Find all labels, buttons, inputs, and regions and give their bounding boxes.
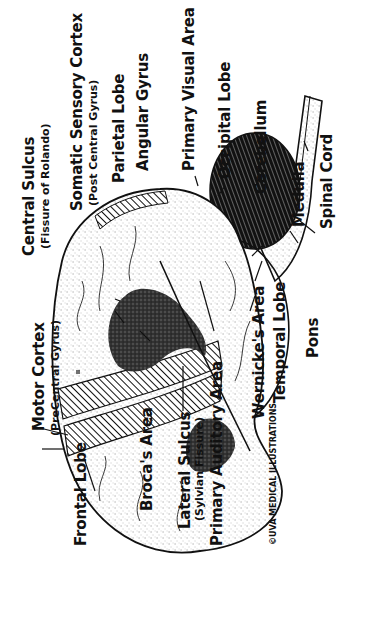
label-motor-cortex-sub: (PreCentral Gyrus) bbox=[50, 320, 61, 436]
label-primary-auditory-area: Primary Auditory Area bbox=[210, 361, 225, 546]
credit-text: ©UVA MEDICAL ILLUSTRATIONS bbox=[270, 403, 278, 545]
label-somatic-sensory-cortex: Somatic Sensory Cortex bbox=[70, 13, 85, 211]
label-brocas-area: Broca's Area bbox=[140, 407, 155, 511]
label-pons: Pons bbox=[306, 318, 321, 358]
label-central-sulcus-sub: (Fissure of Rolando) bbox=[40, 123, 51, 249]
label-wernickes-area: Wernicke's Area bbox=[252, 286, 267, 419]
brain-diagram: Central Sulcus (Fissure of Rolando) Soma… bbox=[0, 0, 365, 641]
label-motor-cortex: Motor Cortex bbox=[32, 322, 47, 431]
label-frontal-lobe: Frontal Lobe bbox=[74, 442, 89, 546]
label-cerebellum: Cerebellum bbox=[254, 100, 269, 194]
label-medulla: Medulla bbox=[292, 161, 307, 227]
label-parietal-lobe: Parietal Lobe bbox=[112, 74, 127, 183]
label-central-sulcus: Central Sulcus bbox=[22, 137, 37, 256]
label-occipital-lobe: Occipital Lobe bbox=[218, 62, 233, 179]
label-lateral-sulcus-sub: (Sylvian Fissure) bbox=[194, 417, 205, 521]
label-spinal-cord: Spinal Cord bbox=[320, 134, 335, 229]
label-primary-visual-area: Primary Visual Area bbox=[182, 7, 197, 171]
label-lateral-sulcus: Lateral Sulcus bbox=[178, 412, 193, 529]
label-angular-gyrus: Angular Gyrus bbox=[136, 53, 151, 171]
label-temporal-lobe: Temporal Lobe bbox=[273, 282, 288, 403]
label-somatic-sensory-cortex-sub: (Post Central Gyrus) bbox=[88, 80, 99, 206]
